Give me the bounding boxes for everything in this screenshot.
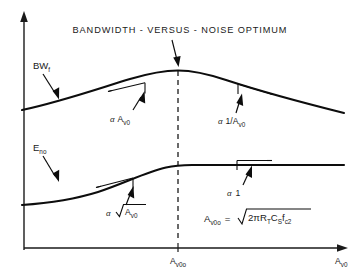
- eno-right-alpha: α: [227, 189, 232, 198]
- formula-term2: C: [271, 212, 278, 223]
- formula-equals: =: [225, 213, 231, 224]
- bw-right-alpha: α: [218, 117, 223, 126]
- svg-text:Av0o=: Av0o=: [204, 213, 231, 226]
- formula-term3-sub: c2: [285, 218, 292, 225]
- svg-text:Eno: Eno: [33, 142, 47, 155]
- svg-text:2πRTCSfc2: 2πRTCSfc2: [248, 212, 292, 225]
- bw-label-arrowhead: [53, 87, 60, 99]
- noise-curve-label: Eno: [33, 142, 59, 182]
- eno-left-radicand-sub: v0: [131, 212, 138, 219]
- bw-left-alpha: α: [110, 115, 115, 124]
- title-arrowhead: [173, 56, 180, 67]
- annotation-eno-right-slope: α1: [227, 166, 252, 199]
- title-leader-arrow: [172, 40, 181, 67]
- bw-right-text: 1/A: [226, 116, 239, 126]
- formula-lhs-sub: v0o: [210, 219, 221, 226]
- x-tick-label-sub: v0o: [176, 261, 187, 268]
- chart-title: BANDWIDTH - VERSUS - NOISE OPTIMUM: [73, 25, 288, 35]
- optimum-formula: Av0o= 2πRTCSfc2: [204, 209, 311, 226]
- bandwidth-noise-optimum-chart: BANDWIDTH - VERSUS - NOISE OPTIMUM BWf E…: [0, 0, 361, 270]
- bw-label-main: BW: [33, 60, 48, 71]
- x-axis-tick-label: Av0o: [170, 256, 186, 268]
- svg-text:Av0: Av0: [125, 207, 138, 219]
- x-axis-label-sub: v0: [341, 261, 348, 268]
- annotation-bw-left-slope: αAv0: [110, 91, 145, 126]
- formula-coefficient: 2πR: [248, 212, 267, 223]
- y-axis: [20, 11, 28, 250]
- svg-text:αAv0: αAv0: [110, 114, 130, 126]
- eno-right-text: 1: [236, 188, 241, 198]
- eno-left-alpha: α: [106, 209, 111, 218]
- slope-marker-bw-right: [238, 84, 273, 95]
- y-axis-arrowhead: [20, 11, 28, 22]
- bw-label-sub: f: [48, 66, 50, 73]
- svg-text:α1/Av0: α1/Av0: [218, 116, 246, 128]
- bw-left-sub: v0: [123, 119, 130, 126]
- noise-curve: [22, 165, 344, 205]
- x-axis-label: Av0: [335, 256, 348, 268]
- eno-left-annot-arrowhead: [128, 186, 135, 198]
- svg-text:α: α: [106, 209, 111, 218]
- bw-right-sub: v0: [238, 121, 245, 128]
- eno-label-sub: no: [39, 148, 47, 155]
- bandwidth-curve: [22, 71, 344, 114]
- bandwidth-curve-label: BWf: [33, 60, 59, 100]
- x-axis-arrowhead: [337, 244, 348, 252]
- eno-label-arrowhead: [53, 170, 60, 182]
- bw-right-annot-arrowhead: [236, 94, 243, 107]
- bw-left-annot-arrowhead: [139, 91, 146, 104]
- svg-text:α1: α1: [227, 188, 241, 198]
- svg-text:BWf: BWf: [33, 60, 50, 73]
- figure-root: BANDWIDTH - VERSUS - NOISE OPTIMUM BWf E…: [0, 0, 361, 270]
- annotation-bw-right-slope: α1/Av0: [218, 94, 246, 129]
- x-axis: [24, 244, 348, 252]
- annotation-eno-left-slope: α Av0: [106, 186, 146, 219]
